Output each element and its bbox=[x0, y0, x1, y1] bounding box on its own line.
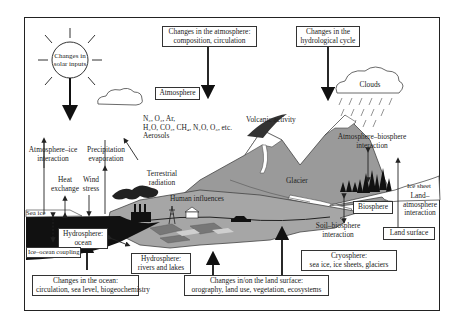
biosphere-box: Biosphere bbox=[353, 201, 393, 214]
atmosphere-biosphere-label: Atmosphere–biosphere interaction bbox=[334, 133, 410, 150]
heat-exchange-label: Heat exchange bbox=[48, 176, 82, 193]
hydrological-change-box: Changes in the hydrological cycle bbox=[296, 26, 360, 47]
sun-label-line2: solar inputs bbox=[52, 60, 88, 68]
ice-ocean-coupling-box: Ice–ocean coupling bbox=[26, 247, 81, 258]
wind-line2: stress bbox=[80, 185, 102, 194]
heat-line2: exchange bbox=[48, 185, 82, 194]
cryosphere-box: Cryosphere: sea ice, ice sheets, glacier… bbox=[301, 250, 397, 271]
atmosphere-box: Atmosphere bbox=[155, 87, 200, 100]
hydrological-change-line2: hydrological cycle bbox=[300, 37, 356, 46]
ocean-change-box: Changes in the ocean: circulation, sea l… bbox=[32, 275, 139, 296]
wind-stress-label: Wind stress bbox=[80, 176, 102, 193]
gases-line3: Aerosols bbox=[143, 132, 232, 141]
precip-line2: evaporation bbox=[84, 155, 128, 164]
land-change-line2: orography, land use, vegetation, ecosyst… bbox=[188, 286, 325, 295]
hydrosphere-rivers-box: Hydrosphere: rivers and lakes bbox=[131, 253, 191, 274]
gases-label: N₂, O₂, Ar, H₂O, CO₂, CH₄, N₂O, O₃, etc.… bbox=[143, 115, 232, 141]
volcanic-activity-label: Volcanic activity bbox=[246, 116, 296, 125]
atm-ice-line2: interaction bbox=[26, 155, 80, 164]
land-change-box: Changes in/on the land surface: orograph… bbox=[184, 275, 329, 296]
land-atmosphere-label: Land– atmosphere interaction bbox=[400, 192, 440, 218]
precipitation-label: Precipitation evaporation bbox=[84, 146, 128, 163]
ocean-change-line2: circulation, sea level, biogeochemistry bbox=[36, 286, 135, 295]
soil-bio-line2: interaction bbox=[314, 231, 362, 240]
atmosphere-ice-label: Atmosphere–ice interaction bbox=[26, 146, 80, 163]
cloud-icon bbox=[98, 88, 143, 105]
terrestrial-line2: radiation bbox=[144, 179, 180, 188]
land-atm-line3: interaction bbox=[400, 209, 440, 218]
soil-biosphere-label: Soil–biosphere interaction bbox=[314, 222, 362, 239]
atm-bio-line2: interaction bbox=[334, 142, 410, 151]
human-influences-label: Human influences bbox=[170, 195, 224, 204]
ice-sheet-label: Ice sheet bbox=[407, 182, 431, 191]
sun-label: Changes in solar inputs bbox=[52, 52, 88, 68]
glacier-label: Glacier bbox=[286, 177, 308, 186]
clouds-label: Clouds bbox=[355, 81, 385, 90]
hydro-rivers-line2: rivers and lakes bbox=[135, 264, 187, 273]
sun-label-line1: Changes in bbox=[52, 52, 88, 60]
hydrosphere-ocean-box: Hydrosphere: ocean bbox=[58, 228, 108, 249]
terrestrial-radiation-label: Terrestrial radiation bbox=[144, 170, 180, 187]
atmosphere-change-box: Changes in the atmosphere: composition, … bbox=[162, 26, 257, 47]
cryosphere-line2: sea ice, ice sheets, glaciers bbox=[305, 261, 393, 270]
hydro-ocean-line2: ocean bbox=[62, 239, 104, 248]
atmosphere-change-line2: composition, circulation bbox=[166, 37, 253, 46]
sea-ice-label: Sea ice bbox=[26, 209, 45, 218]
land-surface-box: Land surface bbox=[383, 227, 435, 240]
sun-icon bbox=[38, 28, 102, 113]
